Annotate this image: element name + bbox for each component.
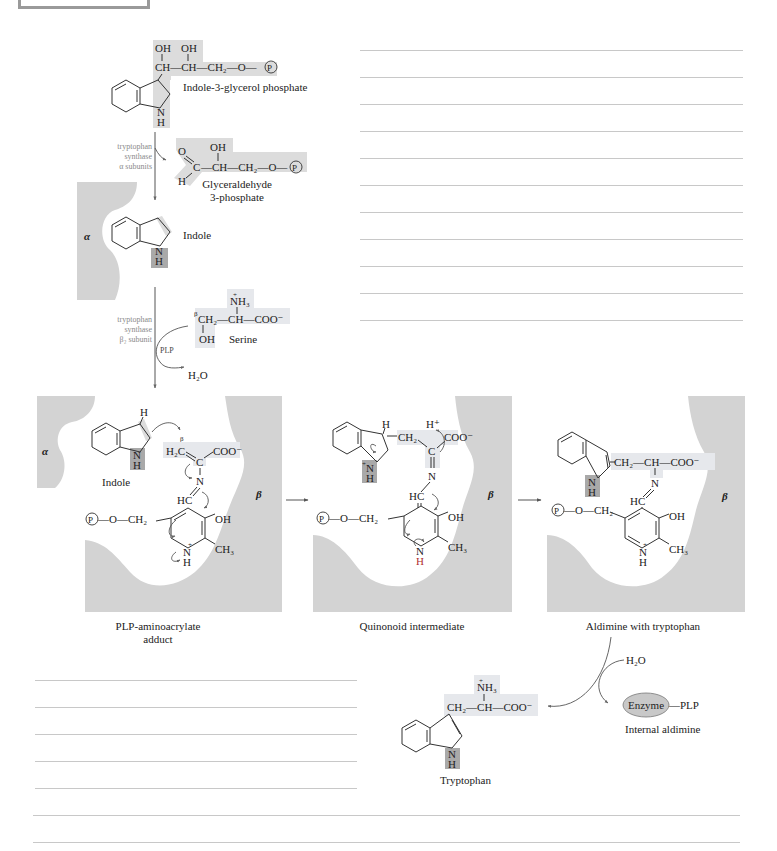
phosphate-label: P (88, 515, 93, 525)
compound-label: Indole-3-glycerol phosphate (183, 81, 307, 93)
hydrogen-label: H (366, 472, 374, 484)
chain-label: CH₂—CH—COO⁻ (614, 456, 700, 468)
plp-label: PLP (160, 346, 174, 355)
enzyme-label: α subunits (119, 162, 152, 171)
nitrogen-label: N (196, 475, 204, 487)
oh-label: OH (155, 42, 171, 54)
methyl-label: CH₃ (215, 543, 234, 555)
linker-label: —O—CH₂ (563, 504, 613, 516)
panel-aldimine-with-tryptophan: β N H CH₂—CH—COO⁻ N HC P —O—CH₂ OH CH₃ +… (547, 396, 745, 632)
phosphate-label: P (292, 163, 297, 173)
imine-carbon-label: HC (177, 494, 192, 506)
hydrogen-label: H (416, 555, 424, 567)
compound-label: Glyceraldehyde (202, 178, 272, 190)
tryptophan-synthase-diagram: OH OH CH—CH—CH₂—O— P N H Indole-3-glycer… (0, 0, 777, 851)
enzyme-label: synthase (124, 152, 152, 161)
carbon-label: C (193, 161, 200, 173)
charge-label: + (188, 541, 192, 549)
imine-carbon-label: HC (409, 490, 424, 502)
hydrogen-label: H (639, 556, 647, 568)
linker-label: —O—CH₂ (328, 512, 378, 524)
water-label: H₂O (626, 654, 646, 666)
chain-label: —CH—CH₂—O— (200, 161, 288, 173)
beta-carbon-label: β (180, 435, 184, 443)
chain-label: CH₂—CH—COO⁻ (198, 313, 284, 325)
alpha-subunit-pocket: α N H Indole (77, 182, 211, 300)
plp-label: —PLP (668, 699, 699, 711)
tryptophan-product: + NH₃ CH₂—CH—COO⁻ N H Tryptophan (402, 675, 538, 786)
hydrolysis-step: H₂O Enzyme —PLP Internal aldimine (548, 637, 701, 735)
oh-label: OH (199, 333, 215, 345)
alpha-subunit-shape (37, 396, 95, 488)
serine: NH₃ + β CH₂—CH—COO⁻ OH Serine (194, 289, 290, 348)
compound-label: 3-phosphate (210, 191, 264, 203)
hydrogen-label: H (382, 418, 390, 430)
panel-quinonoid-intermediate: β H + N H H⁺ CH₂ C COO⁻ N HC P —O—CH₂ (313, 396, 512, 632)
nitrogen-label: N (428, 470, 436, 482)
chain-label: CH—CH—CH₂—O— (155, 61, 258, 73)
oh-label: OH (181, 42, 197, 54)
carboxylate-label: COO⁻ (213, 445, 242, 457)
methyl-label: CH₃ (669, 543, 688, 555)
beta-step: tryptophan synthase β₂ subunit PLP H₂O (117, 287, 207, 388)
enzyme-label: Enzyme (628, 699, 664, 711)
beta-label: β (487, 488, 494, 500)
hydrogen-label: H (133, 459, 141, 471)
compound-label: Indole (183, 229, 211, 241)
phosphate-label: P (267, 63, 272, 73)
enzyme-label: β₂ subunit (120, 335, 153, 344)
carbon-label: C (196, 456, 203, 468)
methyl-label: CH₃ (448, 541, 467, 553)
compound-label: Serine (229, 333, 257, 345)
phosphate-label: P (319, 514, 324, 524)
nitrogen-label: N (651, 477, 659, 489)
internal-aldimine-label: Internal aldimine (625, 723, 701, 735)
linker-label: —O—CH₂ (97, 513, 147, 525)
enzyme-label: tryptophan (117, 315, 152, 324)
panel-caption: Quinonoid intermediate (360, 620, 465, 632)
proton-label: H⁺ (426, 418, 440, 430)
oxygen-label: O (178, 145, 186, 157)
oh-label: OH (210, 141, 226, 153)
hydrogen-label: H (178, 175, 186, 187)
carboxylate-label: COO⁻ (444, 431, 473, 443)
ammonium-label: NH₃ (477, 681, 497, 693)
compound-label: Indole (102, 476, 130, 488)
oh-label: OH (448, 511, 464, 523)
panel-plp-aminoacrylate: α β H N H Indole β H₂C C COO⁻ N HC P —O— (37, 396, 282, 645)
imine-carbon-label: HC (630, 495, 645, 507)
charge-label: + (233, 291, 237, 299)
enzyme-label: tryptophan (117, 142, 152, 151)
alpha-label: α (84, 230, 91, 242)
glyceraldehyde-3-phosphate: O C OH —CH—CH₂—O— P H Glyceraldehyde 3-p… (174, 138, 307, 203)
oh-label: OH (215, 513, 231, 525)
compound-label: Tryptophan (440, 774, 491, 786)
panel-caption: adduct (143, 633, 172, 645)
beta-label: β (721, 490, 728, 502)
beta-label: β (255, 488, 262, 500)
oh-label: OH (669, 510, 685, 522)
alpha-label: α (42, 445, 49, 457)
methylene-label: H₂C (166, 445, 185, 457)
water-label: H₂O (188, 369, 208, 381)
chain-label: CH₂—CH—COO⁻ (447, 701, 533, 713)
phosphate-label: P (554, 506, 559, 516)
hydrogen-label: H (140, 406, 148, 418)
hydrogen-label: H (183, 556, 191, 568)
enzyme-label: synthase (124, 325, 152, 334)
panel-caption: PLP-aminoacrylate (116, 620, 201, 632)
hydrogen-label: H (588, 486, 596, 498)
hydrogen-label: H (155, 255, 163, 267)
hydrogen-label: H (157, 116, 165, 128)
indole-3-glycerol-phosphate: OH OH CH—CH—CH₂—O— P N H Indole-3-glycer… (112, 40, 307, 128)
carbon-label: C (428, 445, 435, 457)
panel-caption: Aldimine with tryptophan (586, 620, 701, 632)
hydrogen-label: H (448, 758, 456, 770)
methylene-label: CH₂ (398, 431, 417, 443)
